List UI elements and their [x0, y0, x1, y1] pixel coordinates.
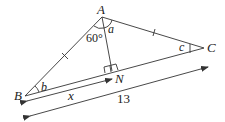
side-ac — [102, 17, 204, 48]
tick-mark-ab — [62, 53, 68, 59]
angle-label-c: c — [179, 40, 185, 54]
angle-arc-a-left — [94, 26, 104, 28]
triangle-diagram: A B C N 60° a b c x 13 — [0, 0, 225, 122]
angle-arc-b — [35, 86, 39, 92]
label-c: C — [207, 40, 216, 55]
angle-label-b: b — [41, 80, 47, 94]
length-label-x: x — [67, 88, 74, 103]
label-n: N — [114, 71, 125, 86]
label-a: A — [96, 2, 105, 17]
label-b: B — [14, 88, 22, 103]
length-label-13: 13 — [117, 91, 130, 106]
angle-label-60: 60° — [86, 31, 103, 45]
angle-label-a: a — [108, 22, 114, 36]
